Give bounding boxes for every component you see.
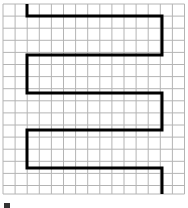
- grid-lines: [3, 4, 185, 194]
- serpentine-grid-diagram: [0, 0, 188, 208]
- cropped-caption-glyph: [4, 203, 10, 208]
- serpentine-path: [27, 4, 162, 194]
- grid-figure: [0, 0, 188, 208]
